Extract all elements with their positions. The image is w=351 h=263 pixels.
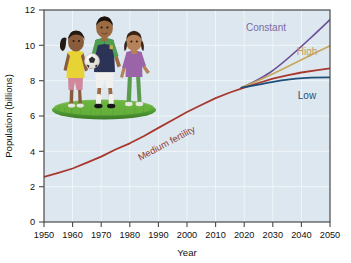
x-tick-label-2030: 2030 [263, 230, 283, 240]
x-tick-label-2000: 2000 [177, 230, 197, 240]
chart-figure: Constant High Low Medium fertility 12 10… [0, 0, 351, 263]
x-tick-label-2010: 2010 [205, 230, 225, 240]
population-projection-plot: Constant High Low Medium fertility 12 10… [0, 0, 351, 263]
x-tick-label-2050: 2050 [320, 230, 340, 240]
x-tick-label-1970: 1970 [91, 230, 111, 240]
y-tick-label-0: 0 [30, 217, 35, 227]
y-tick-label-10: 10 [25, 41, 35, 51]
x-tick-label-1980: 1980 [120, 230, 140, 240]
y-tick-label-2: 2 [30, 182, 35, 192]
x-tick-label-2020: 2020 [234, 230, 254, 240]
y-axis-title: Population (billions) [3, 74, 14, 158]
y-axis-ticks [39, 10, 44, 222]
y-tick-label-12: 12 [25, 5, 35, 15]
x-tick-label-2040: 2040 [291, 230, 311, 240]
series-label-constant: Constant [246, 22, 286, 33]
x-tick-label-1950: 1950 [34, 230, 54, 240]
series-label-high: High [297, 46, 318, 57]
x-axis-ticks [44, 222, 330, 227]
y-tick-label-6: 6 [30, 111, 35, 121]
x-axis-title: Year [177, 247, 197, 258]
y-tick-label-4: 4 [30, 147, 35, 157]
y-tick-label-8: 8 [30, 76, 35, 86]
x-tick-label-1960: 1960 [62, 230, 82, 240]
series-label-low: Low [298, 90, 317, 101]
x-tick-label-1990: 1990 [148, 230, 168, 240]
